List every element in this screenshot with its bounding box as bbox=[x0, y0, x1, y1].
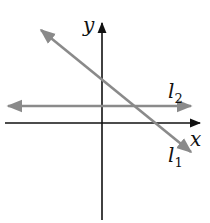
coordinate-diagram: y x l2 l1 bbox=[0, 0, 210, 223]
l2-label: l2 bbox=[168, 79, 183, 106]
l2-label-sub: 2 bbox=[174, 91, 182, 106]
l1-label: l1 bbox=[168, 143, 183, 170]
y-axis-label: y bbox=[82, 13, 95, 37]
l1-label-sub: 1 bbox=[174, 155, 182, 170]
x-axis-label: x bbox=[190, 127, 201, 151]
